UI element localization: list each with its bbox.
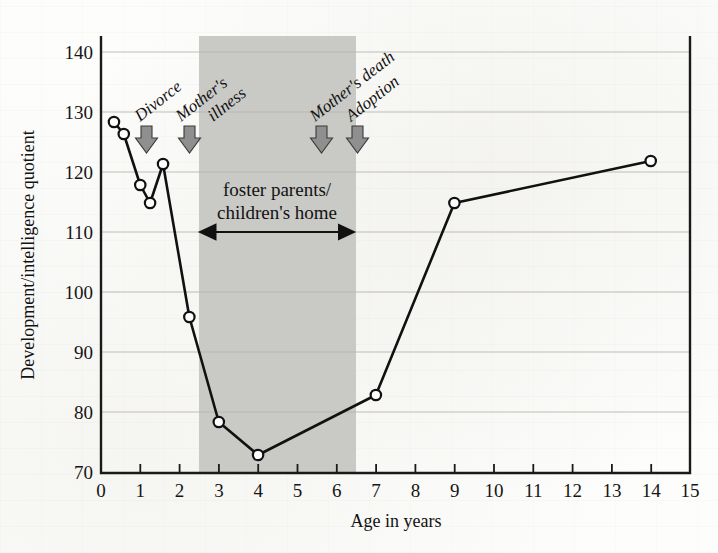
data-point [184, 312, 194, 322]
x-tick-2: 2 [175, 480, 185, 501]
y-tick-100: 100 [65, 282, 94, 303]
x-tick-11: 11 [524, 480, 542, 501]
line-chart: 140 130 120 110 100 90 80 70 0 1 2 3 4 5… [0, 0, 718, 553]
y-tick-140: 140 [65, 42, 94, 63]
x-tick-10: 10 [485, 480, 504, 501]
y-axis-title: Development/intelligence quotient [18, 130, 38, 379]
y-axis-tick-labels: 140 130 120 110 100 90 80 70 [65, 42, 94, 483]
x-tick-12: 12 [563, 480, 582, 501]
y-tick-120: 120 [65, 162, 94, 183]
x-axis-title: Age in years [351, 511, 442, 531]
data-point [109, 117, 119, 127]
x-tick-14: 14 [642, 480, 662, 501]
y-tick-110: 110 [65, 222, 93, 243]
data-point-markers [109, 117, 656, 460]
y-tick-90: 90 [74, 342, 93, 363]
data-point [119, 129, 129, 139]
annotation-arrow-divorce [136, 126, 158, 153]
data-point [214, 417, 224, 427]
data-point [135, 180, 145, 190]
band-label-line2: children's home [217, 202, 337, 223]
data-point [449, 198, 459, 208]
y-tick-130: 130 [65, 102, 94, 123]
data-point [158, 159, 168, 169]
x-tick-3: 3 [214, 480, 224, 501]
x-tick-1: 1 [136, 480, 146, 501]
band-label-line1: foster parents/ [223, 179, 332, 200]
x-tick-13: 13 [602, 480, 621, 501]
x-axis-tick-labels: 0 1 2 3 4 5 6 7 8 9 10 11 12 13 14 15 [96, 480, 699, 501]
x-tick-15: 15 [681, 480, 700, 501]
y-tick-70: 70 [74, 462, 93, 483]
data-point [253, 450, 263, 460]
x-tick-0: 0 [96, 480, 106, 501]
figure-container: 140 130 120 110 100 90 80 70 0 1 2 3 4 5… [0, 0, 718, 553]
x-tick-5: 5 [293, 480, 303, 501]
x-tick-8: 8 [411, 480, 421, 501]
y-tick-80: 80 [74, 402, 93, 423]
annotation-arrow-mothers-illness [179, 126, 201, 153]
data-point [371, 390, 381, 400]
x-tick-7: 7 [371, 480, 381, 501]
x-tick-9: 9 [450, 480, 460, 501]
x-tick-4: 4 [253, 480, 263, 501]
data-point [646, 156, 656, 166]
x-tick-6: 6 [332, 480, 342, 501]
data-point [145, 198, 155, 208]
